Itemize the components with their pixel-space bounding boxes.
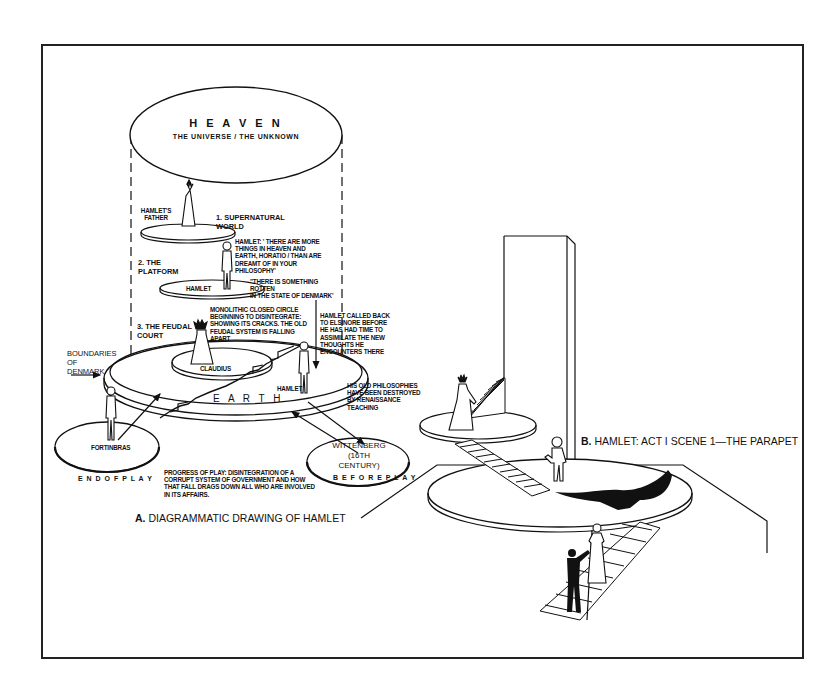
boundaries-line: BOUNDARIES [67,349,117,358]
caption-a-text: DIAGRAMMATIC DRAWING OF HAMLET [148,512,345,524]
wittenberg-line1: WITTENBERG [330,441,388,451]
quote-line: DREAMT OF IN YOUR [235,260,321,267]
hamlets-father-line2: FATHER [140,214,172,221]
quote-line: EARTH, HORATIO / THAN ARE [235,252,321,259]
note-line: PROGRESS OF PLAY: DISINTEGRATION OF A [164,469,315,476]
caption-b-text: HAMLET: ACT I SCENE 1—THE PARAPET [594,435,798,447]
note-line: SHOWING ITS CRACKS. THE OLD [210,320,307,327]
diagram-a [55,87,409,486]
wittenberg-line2: (16TH CENTURY) [330,451,388,471]
caption-a: A. DIAGRAMMATIC DRAWING OF HAMLET [135,512,346,524]
note-line: ENCOUNTERS THERE [320,348,390,355]
quote-line: PHILOSOPHY' [235,267,321,274]
quote-line: IN THE STATE OF DENMARK' [250,292,333,299]
end-of-play-label: E N D O F P L A Y [78,475,153,483]
note-line: APART [210,335,307,342]
wittenberg-label: WITTENBERG (16TH CENTURY) [330,441,388,471]
quote-line: THINGS IN HEAVEN AND [235,245,321,252]
hamlets-father-figure [182,182,195,226]
caption-b-prefix: B. [581,435,592,447]
caption-b: B. HAMLET: ACT I SCENE 1—THE PARAPET [581,435,798,447]
level-2-label: 2. THE PLATFORM [138,258,179,276]
note-line: HAMLET CALLED BACK [320,312,390,319]
note-line: THOUGHTS HE [320,341,390,348]
earth-label: E A R T H [213,393,284,404]
note-line: HIS OLD PHILOSOPHIES [347,382,420,389]
note-line: BY RENAISSANCE [347,396,420,403]
level-3-line2: COURT [137,331,192,340]
monolithic-note: MONOLITHIC CLOSED CIRCLE BEGINNING TO DI… [210,306,307,342]
note-line: HAVE BEEN DESTROYED [347,389,420,396]
fortinbras-label: FORTINBRAS [91,444,130,451]
hamlets-father-label: HAMLET'S FATHER [140,207,172,221]
note-line: THAT FALL DRAGS DOWN ALL WHO ARE INVOLVE… [164,483,315,490]
note-line: TO ELSINORE BEFORE [320,319,390,326]
quote-line: ROTTEN [250,285,333,292]
old-philosophies-note: HIS OLD PHILOSOPHIES HAVE BEEN DESTROYED… [347,382,420,411]
quote-line: HAMLET: ' THERE ARE MORE [235,238,321,245]
level-1-line2: WORLD [216,222,285,231]
hamlets-father-line1: HAMLET'S [140,207,172,214]
quote-line: "THERE IS SOMETHING [250,278,333,285]
upper-stairs [469,378,505,418]
hamlet-platform-label: HAMLET [186,285,211,292]
level-3-line1: 3. THE FEUDAL [137,322,192,331]
called-back-note: HAMLET CALLED BACK TO ELSINORE BEFORE HE… [320,312,390,355]
note-line: BEGINNING TO DISINTEGRATE: [210,313,307,320]
hamlet-quote: HAMLET: ' THERE ARE MORE THINGS IN HEAVE… [235,238,321,274]
progress-note: PROGRESS OF PLAY: DISINTEGRATION OF A CO… [164,469,315,498]
boundaries-line: DENMARK [67,367,117,376]
tower [504,236,575,482]
level-3-label: 3. THE FEUDAL COURT [137,322,192,340]
note-line: FEUDAL SYSTEM IS FALLING [210,328,307,335]
ghost-figure [588,524,606,583]
diagram-canvas [0,0,837,696]
level-1-label: 1. SUPERNATURAL WORLD [216,213,285,231]
level-1-line1: 1. SUPERNATURAL [216,213,285,222]
level-2-line2: PLATFORM [138,267,179,276]
platform-disc [160,280,264,296]
note-line: CORRUPT SYSTEM OF GOVERNMENT AND HOW [164,476,315,483]
boundaries-label: BOUNDARIES OF DENMARK [67,349,117,376]
heaven-subtitle: THE UNIVERSE / THE UNKNOWN [156,133,316,141]
note-line: ASSIMILATE THE NEW [320,334,390,341]
heaven-title: H E A V E N [188,117,284,129]
note-line: TEACHING [347,404,420,411]
note-line: IN ITS AFFAIRS. [164,491,315,498]
rotten-quote: "THERE IS SOMETHING ROTTEN IN THE STATE … [250,278,333,300]
hamlet-earth-label: HAMLET [277,385,302,392]
note-line: HE HAS HAD TIME TO [320,326,390,333]
before-play-label: B E F O R E P L A Y [333,474,416,482]
boundaries-line: OF [67,358,117,367]
claudius-label: CLAUDIUS [200,365,231,372]
king-ghost-figure [449,375,476,430]
caption-a-prefix: A. [135,512,146,524]
note-line: MONOLITHIC CLOSED CIRCLE [210,306,307,313]
diagram-b [361,236,767,620]
level-2-line1: 2. THE [138,258,179,267]
